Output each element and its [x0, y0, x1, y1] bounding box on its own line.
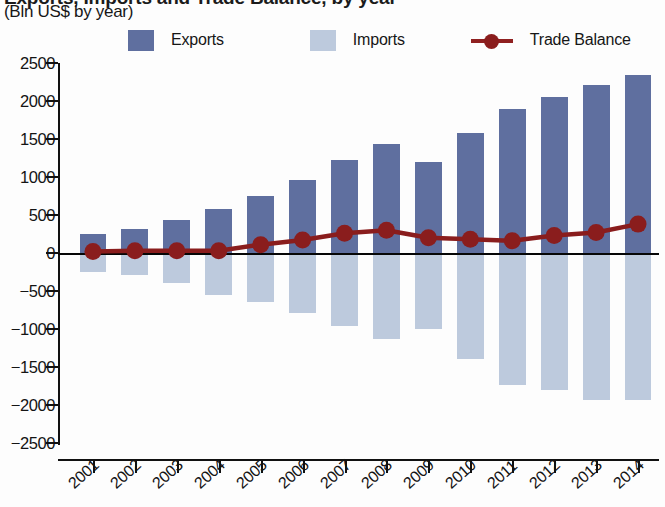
- y-axis-tick-mark: [46, 100, 58, 102]
- y-axis-tick-mark: [46, 404, 58, 406]
- trade-balance-marker: [126, 242, 143, 259]
- trade-balance-marker: [168, 242, 185, 259]
- y-axis-tick-mark: [46, 62, 58, 64]
- trade-balance-marker: [336, 225, 353, 242]
- trade-balance-marker: [378, 222, 395, 239]
- trade-balance-marker: [84, 243, 101, 260]
- y-axis-tick-mark: [46, 290, 58, 292]
- trade-balance-marker: [462, 231, 479, 248]
- y-axis-tick-mark: [46, 328, 58, 330]
- y-axis-tick-mark: [46, 366, 58, 368]
- chart-page: Exports, Imports and Trade Balance, by y…: [0, 0, 665, 507]
- y-axis-tick-mark: [46, 176, 58, 178]
- trade-balance-marker: [420, 229, 437, 246]
- plot-area: 25002000150010005000−500−1000−1500−2000−…: [0, 0, 665, 507]
- trade-balance-line: [0, 0, 665, 507]
- y-axis-tick-mark: [46, 138, 58, 140]
- trade-balance-marker: [630, 216, 647, 233]
- trade-balance-marker: [588, 224, 605, 241]
- trade-balance-marker: [252, 236, 269, 253]
- trade-balance-marker: [546, 227, 563, 244]
- trade-balance-marker: [294, 232, 311, 249]
- y-axis-tick-mark: [46, 252, 58, 254]
- trade-balance-marker: [504, 232, 521, 249]
- y-axis-tick-mark: [46, 442, 58, 444]
- trade-balance-marker: [210, 242, 227, 259]
- y-axis-tick-mark: [46, 214, 58, 216]
